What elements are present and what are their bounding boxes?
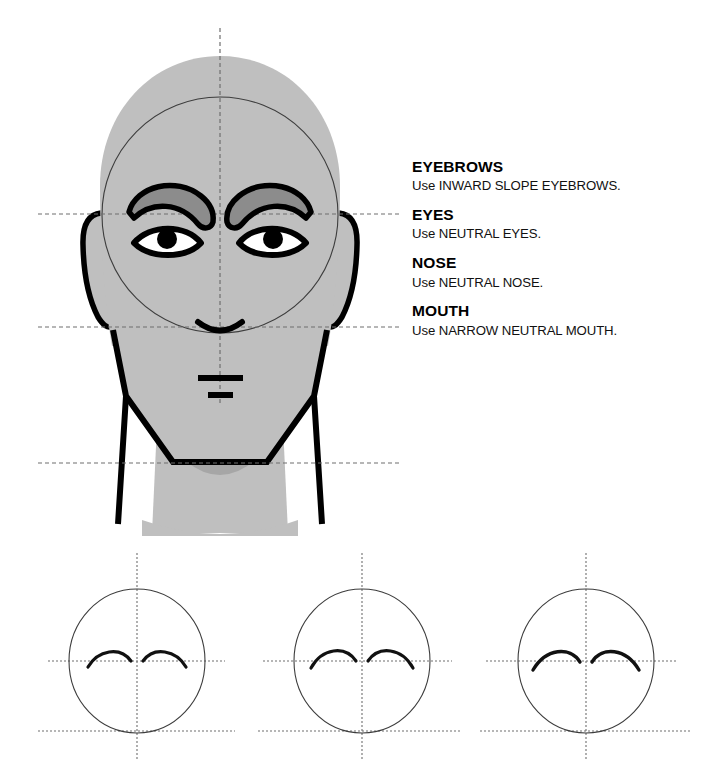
right-eye-iris [263,229,283,249]
feature-legend: EYEBROWS Use INWARD SLOPE EYEBROWS. EYES… [412,158,692,345]
legend-desc-eyes: Use NEUTRAL EYES. [412,226,692,242]
legend-block-mouth: MOUTH Use NARROW NEUTRAL MOUTH. [412,302,692,338]
right-eye [239,229,306,255]
variant-2-left-eyebrow [311,651,356,668]
eyebrow-variant-1 [38,553,235,759]
legend-block-eyebrows: EYEBROWS Use INWARD SLOPE EYEBROWS. [412,158,692,194]
variant-2-right-eyebrow [368,651,413,668]
legend-desc-eyebrows: Use INWARD SLOPE EYEBROWS. [412,178,692,194]
left-eye-iris [157,229,177,249]
variant-1-left-eyebrow [88,652,131,667]
legend-block-nose: NOSE Use NEUTRAL NOSE. [412,254,692,290]
variant-1-right-eyebrow [143,652,186,667]
mouth-lower-bar [208,392,233,398]
mouth-upper-bar [198,375,243,381]
legend-title-eyebrows: EYEBROWS [412,158,692,176]
legend-block-eyes: EYES Use NEUTRAL EYES. [412,206,692,242]
face-construction-illustration [0,0,710,759]
variant-3-left-eyebrow [533,652,580,670]
neck-edge-right [314,396,322,524]
legend-title-eyes: EYES [412,206,692,224]
diagram-canvas: EYEBROWS Use INWARD SLOPE EYEBROWS. EYES… [0,0,710,759]
legend-title-mouth: MOUTH [412,302,692,320]
eyebrow-variant-2 [258,553,462,759]
legend-title-nose: NOSE [412,254,692,272]
left-eye [134,229,201,255]
legend-desc-mouth: Use NARROW NEUTRAL MOUTH. [412,323,692,339]
neck-edge-left [118,396,126,524]
eyebrow-variant-3 [480,553,690,759]
legend-desc-nose: Use NEUTRAL NOSE. [412,275,692,291]
